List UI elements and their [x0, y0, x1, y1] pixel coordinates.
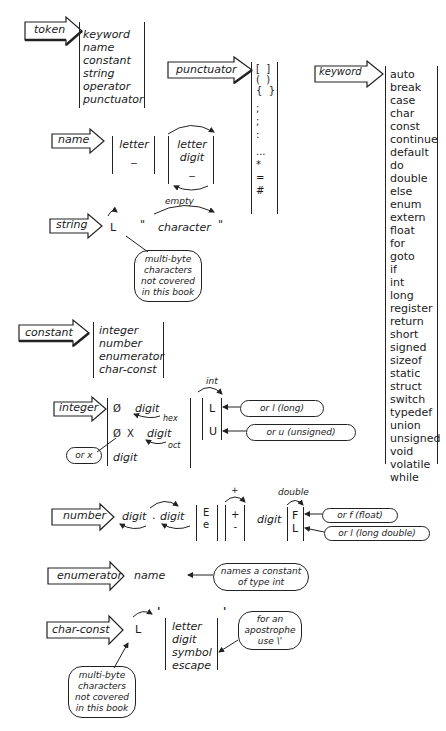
number-suffix-F: F [292, 509, 298, 522]
punct-item: : [256, 128, 275, 141]
keyword-item: extern [390, 211, 440, 224]
number-sign: + - [231, 509, 239, 533]
token-item: constant [83, 54, 144, 67]
char-const-arrow: char-const [45, 615, 125, 645]
number-exp-bar-right [217, 505, 218, 541]
integer-bar-left [107, 398, 108, 466]
char-const-item: symbol [172, 646, 212, 659]
note-line: of type int [216, 577, 306, 588]
number-sign-bar-left [225, 505, 226, 541]
token-arrow: token [22, 16, 84, 46]
constant-item: enumerator [99, 350, 164, 363]
char-const-item: digit [172, 633, 212, 646]
constant-item: integer [99, 324, 164, 337]
keyword-item: int [390, 276, 440, 289]
keyword-item: struct [390, 380, 440, 393]
keyword-item: double [390, 172, 440, 185]
note-line: use \' [241, 636, 299, 647]
string-open-quote: " [140, 218, 145, 231]
number-long-double-note-cloud: or l (long double) [324, 526, 430, 541]
keyword-item: volatile [390, 458, 440, 471]
number-dot: . [152, 509, 156, 522]
name-rest-digit: digit [174, 151, 210, 164]
token-item: punctuator [83, 93, 144, 106]
keyword-item: do [390, 159, 440, 172]
integer-row2-x: X [127, 428, 134, 440]
paren-pair: ( ) [256, 74, 275, 85]
keyword-item: default [390, 146, 440, 159]
number-sign-bypass: + [231, 485, 239, 496]
enumerator-arrow: enumerator [46, 561, 126, 591]
note-line: characters [71, 681, 133, 692]
char-const-bar-left [165, 618, 166, 670]
number-exp-bar-left [196, 505, 197, 541]
punct-item: * [256, 158, 275, 171]
punctuator-label: punctuator [176, 63, 237, 76]
string-arrow: string [48, 213, 104, 239]
keyword-item: const [390, 120, 440, 133]
note-line: in this book [71, 703, 133, 714]
integer-x-note-cloud: or x [66, 447, 102, 464]
keyword-bar-right [437, 66, 438, 464]
token-item: string [83, 67, 144, 80]
keyword-item: char [390, 107, 440, 120]
punct-item: ; [256, 102, 275, 115]
keyword-item: break [390, 81, 440, 94]
enumerator-note-cloud: names a constant of type int [213, 563, 309, 591]
punctuator-arrow: punctuator [166, 56, 254, 84]
punct-item: = [256, 171, 275, 184]
keyword-item: enum [390, 198, 440, 211]
note-line: not covered [137, 276, 199, 287]
token-items: keyword name constant string operator pu… [83, 28, 144, 106]
keyword-item: auto [390, 68, 440, 81]
integer-suffix-bar-right [221, 398, 222, 440]
constant-bar-right [163, 322, 164, 378]
integer-suffix-bar-left [202, 398, 203, 440]
number-exp-upper: E [203, 507, 209, 519]
note-line: names a constant [216, 566, 306, 577]
punct-item: # [256, 184, 275, 197]
keyword-item: register [390, 302, 440, 315]
number-exp-digit: digit [257, 513, 281, 526]
token-bar-right [144, 22, 145, 108]
integer-row2-tag: oct [168, 441, 180, 450]
number-label: number [63, 509, 106, 522]
char-const-close-quote: ' [223, 605, 226, 618]
constant-bar-left [93, 322, 94, 378]
integer-int-label: int [206, 376, 218, 387]
string-note-cloud: multi-byte characters not covered in thi… [134, 250, 202, 302]
number-digit2: digit [160, 510, 184, 523]
number-double-label: double [278, 487, 309, 498]
token-item: name [83, 41, 144, 54]
char-const-bar-right [217, 618, 218, 670]
char-const-item: letter [172, 620, 212, 633]
keyword-item: return [390, 315, 440, 328]
integer-row1-digit: digit [135, 402, 159, 415]
number-exp-lower: e [203, 519, 209, 531]
keyword-item: while [390, 471, 440, 484]
keyword-item: goto [390, 250, 440, 263]
string-close-quote: " [218, 218, 223, 231]
integer-suffix-U: U [209, 425, 217, 438]
brace-pair: { } [256, 85, 275, 96]
integer-bar-right [190, 398, 191, 468]
note-line: multi-byte [137, 254, 199, 265]
integer-row3-digit: digit [113, 451, 137, 464]
note-line: apostrophe [241, 625, 299, 636]
keyword-item: else [390, 185, 440, 198]
integer-row1-zero: Ø [113, 403, 121, 415]
name-label: name [58, 133, 89, 146]
keyword-item: if [390, 263, 440, 276]
number-suffix-bar-left [287, 507, 288, 541]
integer-row2-digit: digit [147, 427, 171, 440]
integer-long-note-cloud: or l (long) [240, 400, 324, 417]
number-digit1: digit [122, 510, 146, 523]
note-line: multi-byte [71, 670, 133, 681]
name-first: letter _ [118, 138, 150, 164]
name-rest-bar-left [168, 136, 169, 184]
name-arrow: name [50, 128, 106, 154]
constant-item: char-const [99, 363, 164, 376]
number-sign-plus: + [231, 509, 239, 521]
name-first-bar-left [112, 136, 113, 174]
keyword-item: case [390, 94, 440, 107]
